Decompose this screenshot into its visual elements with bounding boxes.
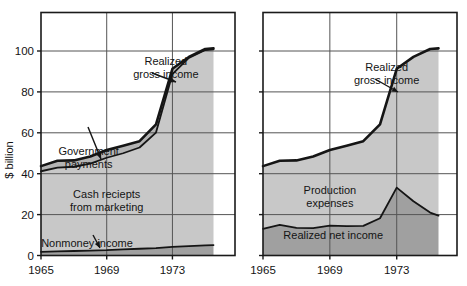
- panel-right: 196519691973Realizedgross incomeProducti…: [250, 13, 457, 276]
- y-tick-label-60: 60: [21, 127, 34, 139]
- annotation-line: gross income: [354, 74, 419, 86]
- x-tick-label-1973: 1973: [160, 264, 186, 276]
- two-panel-area-chart: 020406080100196519691973Realizedgross in…: [0, 0, 467, 286]
- x-axis: 196519691973: [28, 256, 185, 276]
- annotation-production-expenses: Productionexpenses: [304, 184, 357, 209]
- x-tick-label-1965: 1965: [28, 264, 54, 276]
- figure-root: 020406080100196519691973Realizedgross in…: [0, 0, 467, 286]
- x-axis: 196519691973: [250, 256, 409, 276]
- annotation-line: payments: [65, 158, 113, 170]
- y-tick-label-20: 20: [21, 209, 34, 221]
- y-tick-label-0: 0: [28, 250, 34, 262]
- x-tick-label-1969: 1969: [94, 264, 120, 276]
- panel-left: 020406080100196519691973Realizedgross in…: [15, 13, 235, 276]
- x-tick-label-1973: 1973: [384, 264, 410, 276]
- annotation-government-payments: Governmentpayments: [58, 145, 119, 170]
- annotation-line: Realized net income: [283, 229, 383, 241]
- annotation-realized-net-income: Realized net income: [283, 229, 383, 241]
- annotation-line: Nonmoney income: [41, 237, 133, 249]
- annotation-line: Production: [304, 184, 357, 196]
- annotation-nonmoney-income: Nonmoney income: [41, 237, 133, 249]
- annotation-line: Government: [58, 145, 119, 157]
- y-axis-title: $ billion: [3, 141, 15, 178]
- annotation-cash-receipts-from-marketing: Cash recieptsfrom marketing: [70, 188, 143, 213]
- y-axis: 020406080100: [15, 45, 41, 262]
- annotation-line: expenses: [306, 197, 354, 209]
- annotation-line: from marketing: [70, 201, 143, 213]
- y-tick-label-100: 100: [15, 45, 34, 57]
- annotation-line: Realized: [144, 55, 187, 67]
- x-tick-label-1969: 1969: [317, 264, 343, 276]
- x-tick-label-1965: 1965: [250, 264, 276, 276]
- annotation-line: Realized: [365, 61, 408, 73]
- annotation-line: Cash reciepts: [73, 188, 141, 200]
- y-tick-label-80: 80: [21, 86, 34, 98]
- y-tick-label-40: 40: [21, 168, 34, 180]
